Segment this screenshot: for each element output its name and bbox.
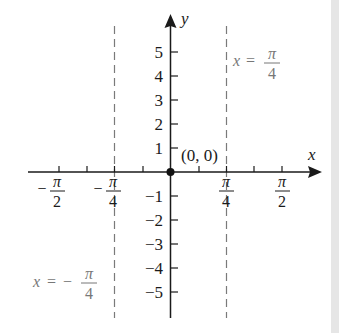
origin-label: (0, 0): [181, 146, 218, 165]
x-axis-label: x: [307, 145, 316, 164]
y-tick-label: 5: [155, 43, 164, 62]
svg-text:π: π: [268, 45, 277, 62]
svg-text:4: 4: [222, 193, 230, 210]
y-tick-label: 4: [155, 67, 164, 86]
y-tick-label: 2: [155, 115, 164, 134]
asymptote-label-left: x = − π 4: [32, 265, 97, 302]
svg-text:4: 4: [109, 193, 117, 210]
svg-text:π: π: [53, 173, 62, 190]
svg-text:2: 2: [53, 193, 61, 210]
svg-text:2: 2: [278, 193, 286, 210]
svg-text:=: =: [47, 273, 56, 290]
svg-text:4: 4: [85, 285, 93, 302]
svg-text:x: x: [232, 52, 240, 69]
svg-text:π: π: [222, 173, 231, 190]
y-tick-label: −2: [145, 211, 163, 230]
y-tick-label: −4: [145, 259, 164, 278]
coordinate-plane: y x (0, 0) 5 4 3 2 1 −1 −2 −3 −4 −5 − π …: [0, 0, 339, 333]
y-axis-label: y: [179, 9, 189, 28]
svg-text:x: x: [32, 273, 40, 290]
x-tick-label-neg-pi-over-2: − π 2: [37, 173, 65, 210]
y-tick-label: −3: [145, 235, 163, 254]
x-tick-label-pi-over-4: π 4: [219, 173, 234, 210]
origin-point: [167, 168, 175, 176]
svg-text:−: −: [63, 273, 72, 290]
svg-text:−: −: [37, 180, 46, 197]
y-tick-label: −5: [145, 283, 163, 302]
svg-text:π: π: [109, 173, 118, 190]
y-tick-label: 1: [155, 139, 164, 158]
svg-text:π: π: [85, 265, 94, 282]
x-tick-label-neg-pi-over-4: − π 4: [93, 173, 121, 210]
y-tick-label: 3: [155, 91, 164, 110]
y-tick-label: −1: [145, 187, 163, 206]
svg-text:−: −: [93, 180, 102, 197]
y-axis-arrow-icon: [165, 14, 177, 28]
graph-canvas: y x (0, 0) 5 4 3 2 1 −1 −2 −3 −4 −5 − π …: [0, 0, 339, 333]
svg-text:=: =: [246, 52, 255, 69]
svg-text:π: π: [278, 173, 287, 190]
x-axis-arrow-icon: [308, 166, 322, 178]
asymptote-label-right: x = π 4: [232, 45, 280, 82]
x-tick-label-pi-over-2: π 2: [275, 173, 290, 210]
svg-text:4: 4: [268, 65, 276, 82]
